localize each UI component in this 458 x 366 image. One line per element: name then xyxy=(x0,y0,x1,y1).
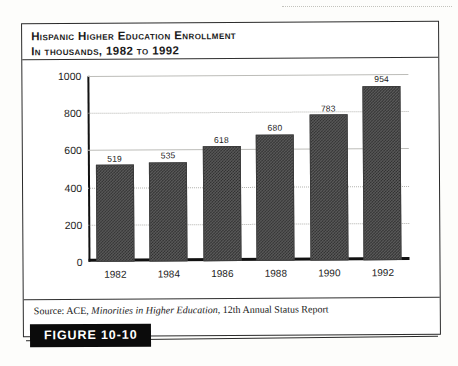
figure-tag: FIGURE 10-10 xyxy=(30,324,152,348)
source-divider xyxy=(24,297,440,301)
bar xyxy=(203,146,242,261)
x-tick-1984: 1984 xyxy=(158,268,180,279)
figure-inner: Hispanic Higher Education Enrollment In … xyxy=(22,22,440,337)
bar-column: 7831990 xyxy=(308,74,349,260)
y-tick-800: 800 xyxy=(64,107,82,119)
y-tick-0: 0 xyxy=(77,256,83,268)
y-tick-1000: 1000 xyxy=(58,70,81,82)
bar-value-label: 954 xyxy=(374,74,389,84)
bar-value-label: 618 xyxy=(214,135,229,145)
bar xyxy=(149,162,188,262)
bar xyxy=(309,115,348,261)
scan-artifact-line xyxy=(282,6,452,8)
bar-column: 5351984 xyxy=(148,75,189,261)
x-tick-1982: 1982 xyxy=(104,269,126,280)
bar-column: 9541992 xyxy=(362,74,403,260)
bar-column: 6801988 xyxy=(255,75,296,261)
plot-region: 10008006004002000 5191982535198461819866… xyxy=(87,74,409,262)
source-note: Source: ACE, Minorities in Higher Educat… xyxy=(34,303,329,316)
x-tick-1986: 1986 xyxy=(211,268,233,279)
bar-column: 6181986 xyxy=(201,75,242,261)
source-suffix: , 12th Annual Status Report xyxy=(218,303,329,315)
figure-frame: Hispanic Higher Education Enrollment In … xyxy=(21,21,441,338)
bar-column: 5191982 xyxy=(94,76,135,262)
bar-value-label: 783 xyxy=(321,103,336,113)
bar xyxy=(256,134,295,261)
x-tick-1992: 1992 xyxy=(372,267,394,278)
chart-area: 10008006004002000 5191982535198461819866… xyxy=(31,62,431,292)
y-tick-400: 400 xyxy=(64,182,82,194)
y-tick-200: 200 xyxy=(65,219,83,231)
bar-value-label: 519 xyxy=(107,154,122,164)
bar-value-label: 680 xyxy=(268,123,283,133)
y-tick-600: 600 xyxy=(64,144,82,156)
x-tick-1990: 1990 xyxy=(318,267,340,278)
bar xyxy=(96,165,135,262)
source-title: Minorities in Higher Education xyxy=(91,304,217,316)
bar-series: 5191982535198461819866801988783199095419… xyxy=(87,74,409,262)
bar-value-label: 535 xyxy=(161,150,176,160)
bar xyxy=(363,85,402,260)
x-tick-1988: 1988 xyxy=(265,268,287,279)
figure-title-block: Hispanic Higher Education Enrollment In … xyxy=(31,27,430,59)
source-prefix: Source: ACE, xyxy=(34,305,92,316)
